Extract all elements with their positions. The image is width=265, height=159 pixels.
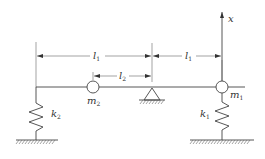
m2-label: m2 <box>87 95 100 107</box>
mass-m2: m2 <box>87 81 100 107</box>
m1-label: m1 <box>230 89 243 101</box>
x-axis-label: x <box>228 13 234 24</box>
k2-label: k2 <box>51 108 61 120</box>
extension-lines <box>36 42 222 87</box>
l2-label: l2 <box>119 70 126 82</box>
dimension-l1-left: l1 <box>37 50 151 62</box>
pivot-support <box>139 88 165 104</box>
lever-spring-mass-diagram: x l1 l1 l2 m2 m1 <box>0 0 265 159</box>
dimension-l2: l2 <box>93 70 151 82</box>
l1-right-label: l1 <box>185 50 192 62</box>
k1-label: k1 <box>200 108 210 120</box>
x-axis: x <box>222 12 234 81</box>
mass-m1: m1 <box>216 81 243 101</box>
spring-k2: k2 <box>29 87 61 140</box>
l1-left-label: l1 <box>93 50 100 62</box>
spring-k1: k1 <box>200 93 229 140</box>
ground-right <box>190 140 254 144</box>
dimension-l1-right: l1 <box>153 50 221 62</box>
ground-left <box>16 140 58 144</box>
